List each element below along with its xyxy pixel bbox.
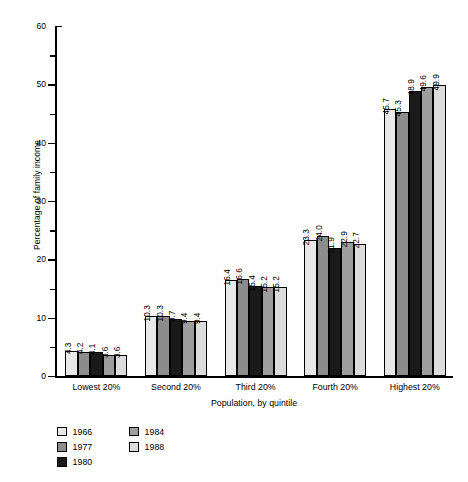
legend-item[interactable]: 1980 <box>57 455 129 470</box>
bar[interactable]: 3.6 <box>103 355 115 376</box>
bar[interactable]: 15.4 <box>249 286 261 376</box>
bar-value-label: 48.9 <box>406 80 414 96</box>
bar[interactable]: 21.9 <box>329 248 341 376</box>
legend-item[interactable]: 1966 <box>57 424 129 439</box>
bar-value-label: 10.3 <box>155 305 163 321</box>
bar[interactable]: 3.6 <box>115 355 127 376</box>
bar-slot: 22.7 <box>354 26 366 376</box>
bar-slot: 4.3 <box>65 26 77 376</box>
legend-swatch <box>57 427 67 437</box>
bar-slot: 16.4 <box>225 26 237 376</box>
bar-value-label: 9.4 <box>192 312 200 324</box>
bar-value-label: 22.9 <box>339 231 347 247</box>
bar-slot: 3.6 <box>103 26 115 376</box>
legend-label: 1984 <box>145 427 165 437</box>
bar-value-label: 49.6 <box>419 76 427 92</box>
y-tick-mark <box>50 289 57 290</box>
bar[interactable]: 22.7 <box>354 244 366 376</box>
bar-value-label: 22.7 <box>352 233 360 249</box>
bar[interactable]: 48.9 <box>409 91 421 376</box>
bar-value-label: 10.3 <box>143 305 151 321</box>
bar[interactable]: 10.3 <box>157 316 169 376</box>
bar-value-label: 16.4 <box>222 269 230 285</box>
legend-swatch <box>57 457 67 467</box>
bar-slot: 49.9 <box>433 26 445 376</box>
bar-slot: 9.4 <box>195 26 207 376</box>
y-tick-label: 10 <box>36 313 46 323</box>
legend-label: 1980 <box>73 457 93 467</box>
bar-group: 16.416.615.415.215.2Third 20% <box>216 26 296 376</box>
y-tick-mark <box>48 259 57 260</box>
bar-group: 23.324.021.922.922.7Fourth 20% <box>295 26 375 376</box>
bar-slot: 10.3 <box>145 26 157 376</box>
bar-value-label: 4.1 <box>88 343 96 355</box>
x-axis-line <box>55 376 453 378</box>
bar[interactable]: 4.2 <box>78 352 90 377</box>
x-axis-title: Population, by quintile <box>55 398 453 408</box>
y-tick-mark <box>48 143 57 144</box>
bar[interactable]: 45.7 <box>384 109 396 376</box>
y-tick-mark <box>48 376 57 377</box>
bar-value-label: 15.2 <box>272 276 280 292</box>
y-tick-mark <box>50 172 57 173</box>
bar-value-label: 4.2 <box>76 343 84 355</box>
bar[interactable]: 22.9 <box>341 242 353 376</box>
bar[interactable]: 23.3 <box>304 240 316 376</box>
bar-group: 4.34.24.13.63.6Lowest 20% <box>57 26 137 376</box>
bar[interactable]: 9.4 <box>195 321 207 376</box>
bar[interactable]: 15.2 <box>262 287 274 376</box>
legend-item[interactable]: 1984 <box>129 424 201 439</box>
bar[interactable]: 45.3 <box>396 112 408 376</box>
y-tick-mark <box>50 347 57 348</box>
bar[interactable]: 49.6 <box>421 87 433 376</box>
bar[interactable]: 9.4 <box>182 321 194 376</box>
x-category-label: Third 20% <box>236 382 276 392</box>
bar-value-label: 16.6 <box>235 268 243 284</box>
bar-value-label: 4.3 <box>63 342 71 354</box>
bar-value-label: 45.3 <box>394 101 402 117</box>
legend-label: 1988 <box>145 442 165 452</box>
bar-slot: 22.9 <box>341 26 353 376</box>
bar-value-label: 3.6 <box>100 346 108 358</box>
bar[interactable]: 49.9 <box>433 85 445 376</box>
y-tick-label: 20 <box>36 254 46 264</box>
bar-slot: 23.3 <box>304 26 316 376</box>
legend-swatch <box>129 427 139 437</box>
bar-value-label: 24.0 <box>314 225 322 241</box>
bar[interactable]: 4.3 <box>65 351 77 376</box>
bar[interactable]: 16.4 <box>225 280 237 376</box>
legend: 19661977198019841988 <box>57 424 201 470</box>
bar[interactable]: 15.2 <box>274 287 286 376</box>
bar[interactable]: 9.7 <box>170 319 182 376</box>
y-tick-label: 60 <box>36 21 46 31</box>
bar-value-label: 15.2 <box>260 276 268 292</box>
legend-item[interactable]: 1988 <box>129 439 201 454</box>
y-tick-mark <box>48 318 57 319</box>
x-category-label: Highest 20% <box>390 382 440 392</box>
y-tick-label: 0 <box>41 371 46 381</box>
y-tick-mark <box>48 84 57 85</box>
bar-slot: 45.7 <box>384 26 396 376</box>
bar-slot: 15.4 <box>249 26 261 376</box>
bar-value-label: 9.4 <box>180 312 188 324</box>
y-axis-title: Percentage of family income <box>32 90 42 300</box>
y-tick-mark <box>50 230 57 231</box>
bar-value-label: 21.9 <box>327 237 335 253</box>
bar-slot: 15.2 <box>274 26 286 376</box>
legend-swatch <box>129 442 139 452</box>
y-tick-mark <box>48 201 57 202</box>
bar-slot: 16.6 <box>237 26 249 376</box>
plot-area: 0102030405060 4.34.24.13.63.6Lowest 20%1… <box>55 26 453 376</box>
bar[interactable]: 16.6 <box>237 279 249 376</box>
bar[interactable]: 10.3 <box>145 316 157 376</box>
bar[interactable]: 24.0 <box>317 236 329 376</box>
x-category-label: Fourth 20% <box>312 382 357 392</box>
bar-slot: 3.6 <box>115 26 127 376</box>
bar-slot: 21.9 <box>329 26 341 376</box>
legend-item[interactable]: 1977 <box>57 439 129 454</box>
bar-value-label: 23.3 <box>302 229 310 245</box>
bar-groups: 4.34.24.13.63.6Lowest 20%10.310.39.79.49… <box>57 26 453 376</box>
y-tick-mark <box>50 114 57 115</box>
legend-swatch <box>57 442 67 452</box>
bar-slot: 4.1 <box>90 26 102 376</box>
